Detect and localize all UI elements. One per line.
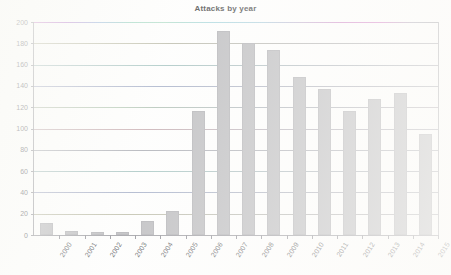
y-tick-mark-0 <box>31 235 34 236</box>
x-axis-label-2001: 2001 <box>83 241 97 258</box>
bar-2012 <box>343 111 356 235</box>
x-tick-mark-2013 <box>388 235 389 239</box>
y-axis-label-100: 100 <box>4 125 28 132</box>
gridline-200 <box>34 22 438 23</box>
bar-2002 <box>91 232 104 235</box>
y-axis-label-0: 0 <box>4 232 28 239</box>
x-tick-mark-2010 <box>312 235 313 239</box>
y-axis-label-80: 80 <box>4 146 28 153</box>
y-axis-label-40: 40 <box>4 189 28 196</box>
x-tick-mark-2012 <box>362 235 363 239</box>
y-axis-label-160: 160 <box>4 61 28 68</box>
bar-2013 <box>368 99 381 235</box>
chart-title: Attacks by year <box>0 4 451 13</box>
x-axis-label-2006: 2006 <box>210 241 224 258</box>
x-axis-label-2005: 2005 <box>184 241 198 258</box>
y-axis-label-120: 120 <box>4 104 28 111</box>
y-axis-label-140: 140 <box>4 82 28 89</box>
x-axis-label-2000: 2000 <box>58 241 72 258</box>
x-tick-mark-2006 <box>211 235 212 239</box>
x-tick-mark-2015 <box>438 235 439 239</box>
x-axis-label-2008: 2008 <box>260 241 274 258</box>
x-axis-label-2011: 2011 <box>336 241 350 258</box>
x-tick-mark-2001 <box>85 235 86 239</box>
y-tick-mark-100 <box>31 129 34 130</box>
bar-2009 <box>267 50 280 235</box>
x-tick-mark-2000 <box>59 235 60 239</box>
x-tick-mark-2005 <box>186 235 187 239</box>
bar-2001 <box>65 231 78 235</box>
y-axis-label-200: 200 <box>4 19 28 26</box>
x-tick-mark-2003 <box>135 235 136 239</box>
x-tick-mark-2008 <box>261 235 262 239</box>
x-tick-mark-2002 <box>110 235 111 239</box>
x-axis-label-2004: 2004 <box>159 241 173 258</box>
x-axis-label-2015: 2015 <box>437 241 451 258</box>
bar-2014 <box>394 93 407 235</box>
bar-2005 <box>166 211 179 235</box>
bar-2008 <box>242 43 255 235</box>
gridline-180 <box>34 43 438 44</box>
y-tick-mark-80 <box>31 150 34 151</box>
x-axis-label-2002: 2002 <box>109 241 123 258</box>
x-tick-mark-2009 <box>287 235 288 239</box>
y-tick-mark-200 <box>31 22 34 23</box>
y-tick-mark-60 <box>31 171 34 172</box>
y-axis-label-20: 20 <box>4 210 28 217</box>
bar-2007 <box>217 31 230 235</box>
bar-2003 <box>116 232 129 235</box>
y-axis-label-180: 180 <box>4 40 28 47</box>
bar-2006 <box>192 111 205 235</box>
y-tick-mark-120 <box>31 107 34 108</box>
x-axis-label-2009: 2009 <box>285 241 299 258</box>
bar-2011 <box>318 89 331 235</box>
y-tick-mark-160 <box>31 65 34 66</box>
x-tick-mark-2011 <box>337 235 338 239</box>
x-tick-mark-2007 <box>236 235 237 239</box>
bar-2004 <box>141 221 154 235</box>
x-axis-label-2010: 2010 <box>311 241 325 258</box>
y-tick-mark-140 <box>31 86 34 87</box>
y-tick-mark-20 <box>31 214 34 215</box>
y-tick-mark-180 <box>31 43 34 44</box>
y-tick-mark-40 <box>31 192 34 193</box>
gridline-160 <box>34 65 438 66</box>
x-tick-mark-2004 <box>160 235 161 239</box>
gridline-140 <box>34 86 438 87</box>
bar-2000 <box>40 223 53 235</box>
x-axis-label-2003: 2003 <box>134 241 148 258</box>
x-tick-mark-2014 <box>413 235 414 239</box>
y-axis-label-60: 60 <box>4 168 28 175</box>
bar-2015 <box>419 134 432 235</box>
x-axis-label-2013: 2013 <box>386 241 400 258</box>
attacks-by-year-chart: Attacks by year 020406080100120140160180… <box>0 0 451 275</box>
x-axis-label-2007: 2007 <box>235 241 249 258</box>
x-axis-label-2014: 2014 <box>412 241 426 258</box>
x-axis-label-2012: 2012 <box>361 241 375 258</box>
bar-2010 <box>293 77 306 235</box>
plot-area <box>33 22 439 236</box>
